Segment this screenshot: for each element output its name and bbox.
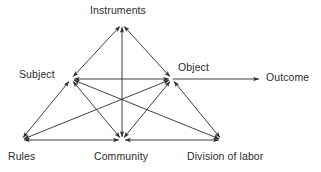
edge-subject-rules (23, 81, 69, 137)
edge-subject-instruments (73, 26, 120, 76)
activity-diagram-canvas (0, 0, 321, 172)
edge-object-division (174, 81, 220, 137)
node-label-rules: Rules (8, 150, 35, 162)
edge-instruments-object (124, 26, 170, 76)
node-label-outcome: Outcome (266, 71, 309, 83)
edge-layer (23, 26, 259, 140)
node-label-community: Community (94, 150, 148, 162)
node-label-subject: Subject (19, 68, 55, 80)
node-label-object: Object (178, 61, 209, 73)
activity-system-diagram: InstrumentsSubjectObjectOutcomeRulesComm… (0, 0, 321, 172)
node-label-instruments: Instruments (90, 4, 146, 16)
node-label-division_of_labor: Division of labor (187, 150, 263, 162)
